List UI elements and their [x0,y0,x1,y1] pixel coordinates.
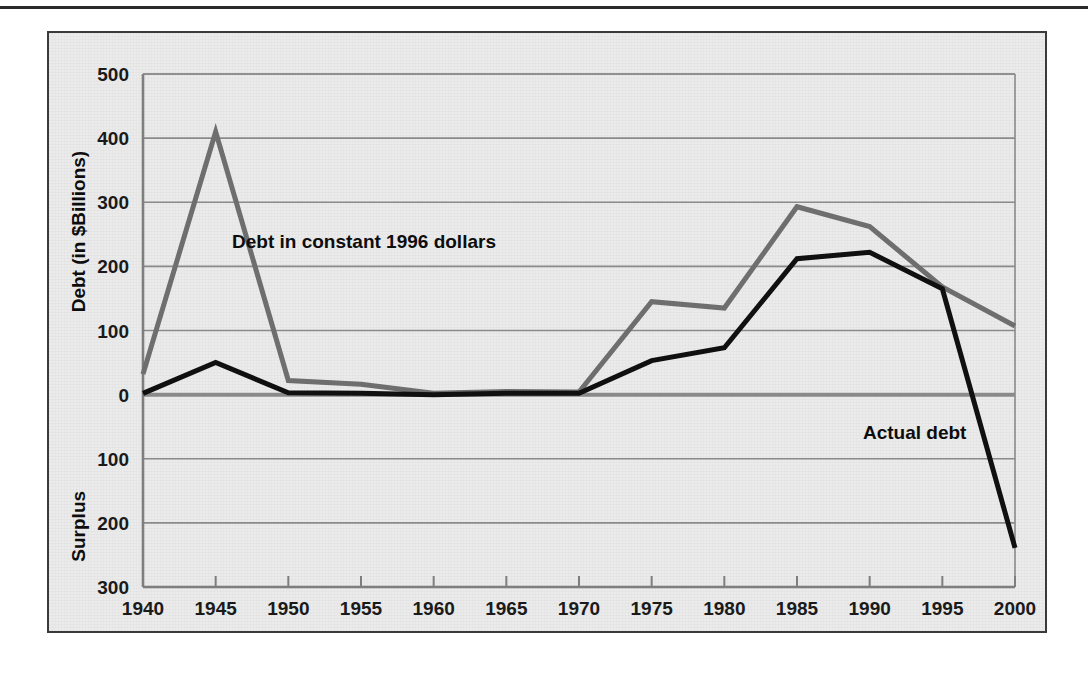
gridlines-group [143,74,1015,523]
y-axis-title-surplus: Surplus [68,491,89,562]
series-annotation-label: Actual debt [863,422,967,443]
series-annotation-label: Debt in constant 1996 dollars [232,231,496,252]
x-tick-label: 1990 [849,598,891,619]
data-series-group [143,132,1015,548]
y-tick-label: 100 [97,321,129,342]
x-tick-label: 1985 [776,598,819,619]
page-canvas: 5004003002001000100200300 19401945195019… [0,0,1088,699]
series-annotations-group: Debt in constant 1996 dollarsActual debt [232,231,967,443]
x-tick-label: 1950 [267,598,309,619]
chart-figure-frame: 5004003002001000100200300 19401945195019… [47,31,1047,633]
y-tick-label: 400 [97,128,129,149]
debt-and-surplus-line-chart: 5004003002001000100200300 19401945195019… [49,33,1045,631]
x-tick-label: 1970 [558,598,600,619]
y-axis-title-debt: Debt (in $Billions) [68,151,89,313]
page-top-rule [0,6,1088,9]
y-tick-label: 0 [118,385,129,406]
x-tick-marks-group [143,576,1015,587]
x-tick-label: 1960 [413,598,455,619]
x-tick-label: 1975 [631,598,674,619]
x-tick-label: 1940 [122,598,164,619]
x-tick-label: 1995 [921,598,964,619]
y-tick-label: 300 [97,577,129,598]
x-tick-label: 1955 [340,598,383,619]
x-tick-labels-group: 1940194519501955196019651970197519801985… [122,598,1036,619]
y-tick-label: 500 [97,64,129,85]
series-line [143,132,1015,394]
x-tick-label: 1980 [703,598,745,619]
x-tick-label: 1945 [195,598,238,619]
x-tick-label: 2000 [994,598,1036,619]
y-tick-labels-group: 5004003002001000100200300 [97,64,129,598]
x-tick-label: 1965 [485,598,528,619]
y-tick-label: 300 [97,192,129,213]
y-tick-label: 200 [97,256,129,277]
series-line [143,252,1015,548]
y-tick-label: 200 [97,513,129,534]
y-tick-label: 100 [97,449,129,470]
